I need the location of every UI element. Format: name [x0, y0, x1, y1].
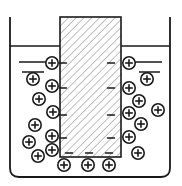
positive-charge-right: [141, 73, 153, 85]
positive-charge-right: [133, 95, 145, 107]
positive-charge-left: [27, 73, 39, 85]
positive-charge-left: [29, 119, 41, 131]
charged-block-diagram: [0, 0, 182, 186]
positive-charge-left: [46, 57, 58, 69]
positive-charge-right: [135, 118, 147, 130]
positive-charge-right: [123, 107, 135, 119]
positive-charge-left: [46, 130, 58, 142]
positive-charge-left: [23, 136, 35, 148]
positive-charge-bottom: [58, 159, 70, 171]
block-hatch: [60, 17, 121, 157]
hatched-block: [60, 17, 121, 157]
positive-charge-right: [123, 131, 135, 143]
diagram-canvas: [0, 0, 182, 186]
positive-charge-right: [152, 104, 164, 116]
positive-charge-bottom: [103, 159, 115, 171]
positive-charge-left: [32, 150, 44, 162]
positive-charge-right: [123, 57, 135, 69]
positive-charge-left: [46, 144, 58, 156]
positive-charge-right: [123, 82, 135, 94]
positive-charge-left: [33, 93, 45, 105]
positive-charge-left: [47, 106, 59, 118]
positive-charge-bottom: [82, 159, 94, 171]
positive-charge-right: [132, 147, 144, 159]
positive-charge-left: [46, 80, 58, 92]
